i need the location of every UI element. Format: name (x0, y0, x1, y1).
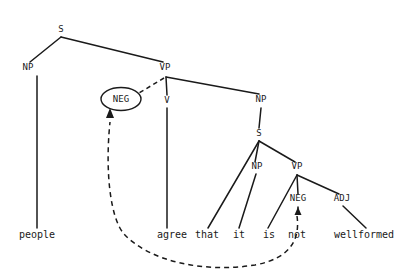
edge-s-embedded-to-vp-embedded (259, 141, 295, 162)
edge-vp-embedded-to-neg (297, 175, 298, 194)
arrowhead-lower-neg (295, 207, 302, 215)
node-label-neg-embedded: NEG (290, 193, 306, 203)
node-label-s-embedded: S (256, 128, 261, 138)
leaf-agree: agree (157, 229, 187, 240)
leaf-people: people (19, 229, 55, 240)
edge-vp-to-neg-dashed (139, 78, 164, 93)
node-label-v-main: V (164, 95, 170, 105)
neg-source-arrowhead (295, 207, 302, 215)
node-label-np-embedded: NP (252, 161, 263, 171)
leaf-is: is (263, 229, 275, 240)
leaf-wellformed: wellformed (334, 229, 394, 240)
neg-raising-curve (108, 122, 297, 268)
leaf-that: that (195, 229, 219, 240)
node-label-np-subject: NP (23, 62, 34, 72)
leaf-not: not (288, 229, 306, 240)
edge-np-object-to-s-embedded (259, 108, 261, 128)
tree-branches (30, 37, 366, 228)
edge-s-to-np-subject (30, 37, 61, 62)
edge-vp-to-v (166, 77, 167, 95)
leaf-labels: people agree that it is not wellformed (19, 229, 394, 240)
node-label-adj: ADJ (334, 193, 350, 203)
edge-s-to-vp-main (61, 37, 163, 62)
node-label-vp-embedded: VP (292, 161, 303, 171)
edge-vp-to-np-object (166, 77, 259, 94)
edge-adj-to-wellformed (343, 206, 366, 228)
movement-dashed-curve (108, 122, 297, 268)
node-label-vp-main: VP (160, 62, 171, 72)
leaf-it: it (233, 229, 245, 240)
tree-canvas: S NP VP NEG V NP S NP VP NEG ADJ people … (0, 0, 409, 280)
edge-np-embedded-to-it (239, 174, 256, 228)
node-label-np-object: NP (256, 94, 267, 104)
node-label-neg-circled: NEG (113, 94, 129, 104)
syntax-tree-diagram: S NP VP NEG V NP S NP VP NEG ADJ people … (0, 0, 409, 280)
node-label-s-root: S (58, 24, 63, 34)
edge-s-embedded-to-that (208, 141, 259, 228)
edge-vp-embedded-to-adj (297, 175, 339, 194)
